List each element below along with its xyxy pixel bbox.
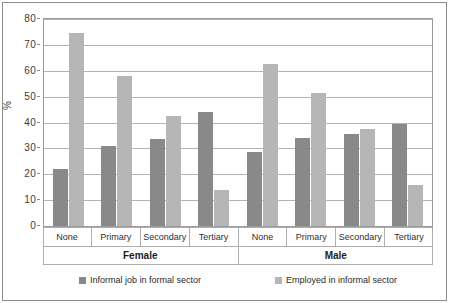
y-axis-tick-label: 70 [24, 38, 36, 49]
x-axis-category-label: Tertiary [190, 227, 239, 246]
y-axis-tick-mark [37, 173, 40, 174]
y-axis-tick-label: 10 [24, 194, 36, 205]
bar [53, 169, 68, 226]
y-axis-tick-label: 80 [24, 13, 36, 24]
x-axis-group-label: Female [43, 246, 239, 265]
bar [166, 116, 181, 226]
bar [263, 64, 278, 226]
x-axis-category-label: Tertiary [385, 227, 433, 246]
bar-group [93, 19, 142, 226]
y-axis-tick-mark [37, 122, 40, 123]
bar [344, 134, 359, 226]
y-axis-tick-label: 20 [24, 168, 36, 179]
x-axis: NonePrimarySecondaryTertiaryNonePrimaryS… [43, 227, 433, 265]
x-axis-group-label: Male [239, 246, 434, 265]
y-axis-tick-mark [37, 225, 40, 226]
bar [408, 185, 423, 226]
bar-group [384, 19, 433, 226]
x-axis-category-label: Primary [287, 227, 336, 246]
bar [150, 139, 165, 226]
bar [360, 129, 375, 226]
y-axis-tick-label: 30 [24, 142, 36, 153]
bar-group [238, 19, 287, 226]
y-axis: 01020304050607080 [14, 18, 40, 227]
bar-group [287, 19, 336, 226]
bar [117, 76, 132, 226]
bar-group [44, 19, 93, 226]
plot-area [43, 18, 433, 227]
chart-figure: % 01020304050607080 NonePrimarySecondary… [0, 0, 449, 303]
y-axis-tick-mark [37, 18, 40, 19]
x-axis-group-row: FemaleMale [43, 246, 433, 265]
x-axis-category-label: None [239, 227, 288, 246]
bar-group [190, 19, 239, 226]
y-axis-tick-mark [37, 147, 40, 148]
x-axis-category-label: Secondary [141, 227, 190, 246]
x-axis-category-label: Secondary [336, 227, 385, 246]
y-axis-tick-label: 40 [24, 116, 36, 127]
legend-entry[interactable]: Employed in informal sector [275, 275, 397, 285]
bar [295, 138, 310, 226]
bar [198, 112, 213, 226]
bars-layer [44, 19, 432, 226]
y-axis-tick-label: 0 [30, 220, 36, 231]
y-axis-tick-label: 60 [24, 64, 36, 75]
y-axis-tick-label: 50 [24, 90, 36, 101]
bar-group [335, 19, 384, 226]
x-axis-category-row: NonePrimarySecondaryTertiaryNonePrimaryS… [43, 227, 433, 246]
x-axis-category-label: Primary [92, 227, 141, 246]
legend-entry[interactable]: Informal job in formal sector [79, 275, 201, 285]
bar [392, 124, 407, 226]
bar [247, 152, 262, 226]
legend-swatch-icon [275, 277, 282, 284]
y-axis-tick-mark [37, 70, 40, 71]
x-axis-category-label: None [43, 227, 92, 246]
legend-label: Informal job in formal sector [90, 275, 201, 285]
y-axis-title: % [2, 101, 13, 110]
bar [101, 146, 116, 226]
y-axis-tick-mark [37, 199, 40, 200]
bar [311, 93, 326, 226]
bar-group [141, 19, 190, 226]
legend-swatch-icon [79, 277, 86, 284]
chart-legend: Informal job in formal sectorEmployed in… [43, 272, 433, 288]
y-axis-tick-mark [37, 44, 40, 45]
legend-label: Employed in informal sector [286, 275, 397, 285]
bar [69, 33, 84, 226]
bar [214, 190, 229, 226]
y-axis-tick-mark [37, 96, 40, 97]
